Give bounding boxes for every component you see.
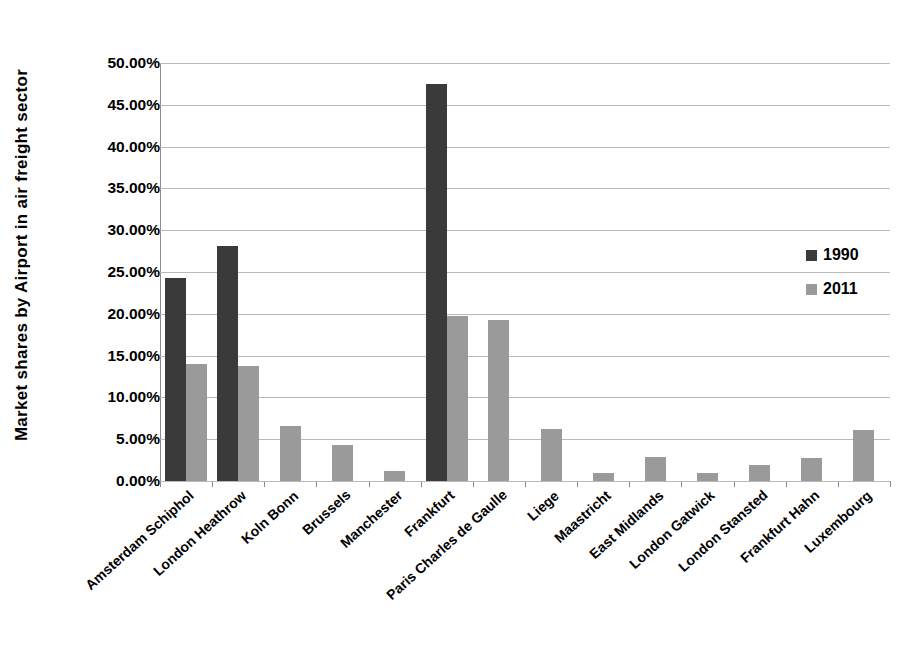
- legend-item: 2011: [806, 272, 892, 306]
- x-tick-mark: [316, 482, 317, 487]
- x-tick-mark: [160, 482, 161, 487]
- x-tick-mark: [369, 482, 370, 487]
- x-tick-mark: [629, 482, 630, 487]
- x-tick-mark: [577, 482, 578, 487]
- x-axis-label: London Stansted: [675, 487, 771, 575]
- legend-label: 2011: [823, 280, 858, 298]
- legend-label: 1990: [823, 246, 859, 264]
- x-tick-mark: [838, 482, 839, 487]
- x-tick-mark: [734, 482, 735, 487]
- legend-swatch-icon: [806, 284, 817, 295]
- bar-chart: Market shares by Airport in air freight …: [0, 0, 920, 654]
- legend-item: 1990: [806, 238, 892, 272]
- x-tick-mark: [473, 482, 474, 487]
- x-tick-mark: [890, 482, 891, 487]
- legend: 19902011: [806, 238, 892, 306]
- legend-swatch-icon: [806, 250, 817, 261]
- x-tick-mark: [525, 482, 526, 487]
- x-tick-mark: [786, 482, 787, 487]
- x-tick-mark: [212, 482, 213, 487]
- x-tick-mark: [681, 482, 682, 487]
- x-axis-label: London Heathrow: [150, 487, 249, 579]
- x-tick-mark: [421, 482, 422, 487]
- x-axis-labels: Amsterdam SchipholLondon HeathrowKoln Bo…: [0, 0, 920, 654]
- x-axis-label: Liege: [524, 487, 562, 523]
- x-tick-mark: [264, 482, 265, 487]
